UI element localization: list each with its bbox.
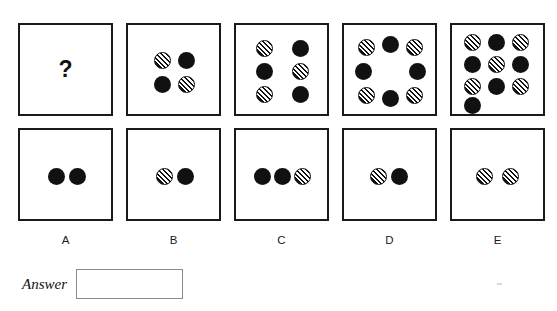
hatched-dot-icon — [292, 63, 309, 80]
answer-row: Answer — [22, 268, 183, 300]
solid-dot-icon — [254, 168, 271, 185]
option-label-d: D — [342, 235, 437, 247]
hatched-dot-icon — [406, 39, 423, 56]
hatched-dot-icon — [154, 52, 171, 69]
solid-dot-icon — [69, 168, 86, 185]
hatched-dot-icon — [406, 87, 423, 104]
solid-dot-icon — [177, 168, 194, 185]
visual-reasoning-puzzle: ? ABCDE Answer — [0, 0, 557, 311]
panel-content-bottom-c — [236, 130, 327, 219]
solid-dot-icon — [256, 63, 273, 80]
answer-label: Answer — [22, 276, 67, 293]
panel-top-e[interactable] — [450, 23, 545, 116]
hatched-dot-icon — [476, 168, 493, 185]
panel-top-b[interactable] — [126, 23, 221, 116]
panel-bottom-a[interactable] — [18, 128, 113, 221]
hatched-dot-icon — [358, 39, 375, 56]
panel-content-bottom-a — [20, 130, 111, 219]
panel-top-a[interactable]: ? — [18, 23, 113, 116]
hatched-dot-icon — [256, 86, 273, 103]
option-label-a: A — [18, 235, 113, 247]
hatched-dot-icon — [156, 168, 173, 185]
solid-dot-icon — [464, 56, 481, 73]
hatched-dot-icon — [512, 34, 529, 51]
solid-dot-icon — [391, 168, 408, 185]
scan-speck — [497, 283, 502, 285]
hatched-dot-icon — [358, 87, 375, 104]
question-mark: ? — [20, 58, 111, 81]
hatched-dot-icon — [512, 78, 529, 95]
answer-input[interactable] — [76, 269, 183, 299]
panel-content-bottom-d — [344, 130, 435, 219]
solid-dot-icon — [382, 36, 399, 53]
solid-dot-icon — [382, 90, 399, 107]
solid-dot-icon — [292, 40, 309, 57]
solid-dot-icon — [464, 97, 481, 114]
panel-bottom-b[interactable] — [126, 128, 221, 221]
panel-content-bottom-b — [128, 130, 219, 219]
solid-dot-icon — [409, 63, 426, 80]
panel-content-top-d — [344, 25, 435, 114]
solid-dot-icon — [488, 34, 505, 51]
panel-bottom-d[interactable] — [342, 128, 437, 221]
hatched-dot-icon — [256, 40, 273, 57]
panel-top-c[interactable] — [234, 23, 329, 116]
solid-dot-icon — [292, 86, 309, 103]
solid-dot-icon — [154, 76, 171, 93]
hatched-dot-icon — [294, 168, 311, 185]
hatched-dot-icon — [488, 56, 505, 73]
option-label-b: B — [126, 235, 221, 247]
panel-content-top-b — [128, 25, 219, 114]
panel-content-top-e — [452, 25, 543, 114]
panel-content-top-c — [236, 25, 327, 114]
hatched-dot-icon — [370, 168, 387, 185]
solid-dot-icon — [178, 52, 195, 69]
hatched-dot-icon — [502, 168, 519, 185]
panel-bottom-c[interactable] — [234, 128, 329, 221]
panel-content-top-a: ? — [20, 25, 111, 114]
solid-dot-icon — [274, 168, 291, 185]
panel-content-bottom-e — [452, 130, 543, 219]
option-label-c: C — [234, 235, 329, 247]
panel-bottom-e[interactable] — [450, 128, 545, 221]
hatched-dot-icon — [178, 76, 195, 93]
solid-dot-icon — [488, 78, 505, 95]
panel-top-d[interactable] — [342, 23, 437, 116]
option-label-e: E — [450, 235, 545, 247]
solid-dot-icon — [48, 168, 65, 185]
hatched-dot-icon — [464, 34, 481, 51]
solid-dot-icon — [512, 56, 529, 73]
hatched-dot-icon — [464, 78, 481, 95]
solid-dot-icon — [355, 63, 372, 80]
